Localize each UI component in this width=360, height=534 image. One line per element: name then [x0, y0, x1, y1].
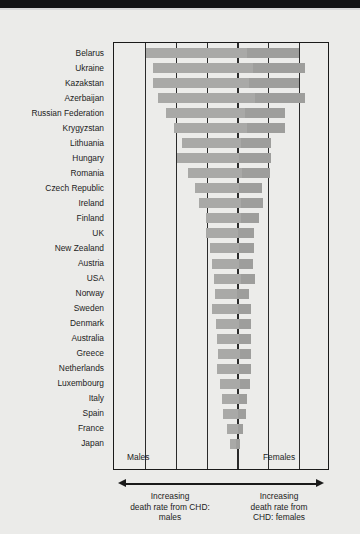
- category-label: Luxembourg: [0, 379, 108, 388]
- bar: [217, 364, 251, 374]
- bar: [166, 108, 285, 118]
- category-label: Japan: [0, 439, 108, 448]
- bar: [222, 394, 247, 404]
- category-label: Hungary: [0, 154, 108, 163]
- bar-inner-segment: [249, 78, 299, 88]
- bar-inner-segment: [239, 334, 251, 344]
- bar-inner-segment: [236, 439, 239, 449]
- bar-inner-segment: [239, 153, 271, 163]
- bar: [212, 304, 251, 314]
- bar: [212, 259, 253, 269]
- category-label: Ukraine: [0, 64, 108, 73]
- category-label: Krygyzstan: [0, 124, 108, 133]
- category-label: Romania: [0, 169, 108, 178]
- category-label: Russian Federation: [0, 109, 108, 118]
- males-legend-label: Males: [127, 452, 149, 462]
- bar: [220, 379, 250, 389]
- bar: [177, 153, 271, 163]
- bar-inner-segment: [255, 93, 305, 103]
- bar: [230, 439, 239, 449]
- category-label: Lithuania: [0, 139, 108, 148]
- bar-inner-segment: [242, 168, 270, 178]
- bar: [195, 183, 262, 193]
- bar-inner-segment: [237, 289, 249, 299]
- bar: [215, 289, 249, 299]
- bar: [188, 168, 271, 178]
- category-label: Spain: [0, 409, 108, 418]
- bar: [153, 78, 299, 88]
- bar: [206, 213, 260, 223]
- arrow-shaft: [125, 483, 317, 485]
- bar-inner-segment: [239, 364, 251, 374]
- bar: [199, 198, 263, 208]
- bar-inner-segment: [241, 138, 271, 148]
- left-axis-caption: Increasingdeath rate from CHD:males: [118, 491, 222, 523]
- bar-inner-segment: [239, 259, 253, 269]
- category-label: France: [0, 424, 108, 433]
- females-legend-label: Females: [263, 452, 295, 462]
- bar-inner-segment: [247, 123, 285, 133]
- bar-inner-segment: [247, 48, 299, 58]
- caption-line: Increasing: [231, 491, 327, 502]
- category-label: Czech Republic: [0, 184, 108, 193]
- category-label: Austria: [0, 259, 108, 268]
- bar-inner-segment: [239, 319, 251, 329]
- figure-page: BelarusUkraineKazakstanAzerbaijanRussian…: [0, 0, 360, 534]
- bar-inner-segment: [239, 243, 254, 253]
- bar: [153, 63, 305, 73]
- bar: [216, 319, 251, 329]
- bar-inner-segment: [240, 379, 250, 389]
- category-label: Azerbaijan: [0, 94, 108, 103]
- bar-inner-segment: [240, 349, 251, 359]
- caption-line: death rate from: [231, 502, 327, 513]
- bar: [223, 409, 246, 419]
- bar-inner-segment: [238, 409, 246, 419]
- bar: [206, 228, 254, 238]
- category-label: Finland: [0, 214, 108, 223]
- bar-inner-segment: [239, 394, 247, 404]
- category-label: USA: [0, 274, 108, 283]
- bar-inner-segment: [241, 274, 255, 284]
- caption-line: Increasing: [118, 491, 222, 502]
- bar: [227, 424, 244, 434]
- bar-inner-segment: [238, 228, 254, 238]
- figure-paper: BelarusUkraineKazakstanAzerbaijanRussian…: [0, 10, 360, 534]
- bar: [182, 138, 271, 148]
- category-label: Kazakstan: [0, 79, 108, 88]
- category-label: UK: [0, 229, 108, 238]
- bar: [158, 93, 305, 103]
- bar-inner-segment: [238, 304, 251, 314]
- bar-inner-segment: [245, 108, 285, 118]
- category-label: Denmark: [0, 319, 108, 328]
- arrow-right-head: [316, 479, 324, 487]
- bar: [218, 349, 251, 359]
- bar: [217, 334, 251, 344]
- direction-arrow: [118, 479, 324, 488]
- category-label: Italy: [0, 394, 108, 403]
- category-label: Greece: [0, 349, 108, 358]
- category-label: Belarus: [0, 49, 108, 58]
- category-label: Sweden: [0, 304, 108, 313]
- bar: [210, 243, 254, 253]
- bar: [174, 123, 285, 133]
- caption-line: males: [118, 512, 222, 523]
- bar-inner-segment: [253, 63, 305, 73]
- bar-inner-segment: [238, 424, 244, 434]
- bar: [146, 48, 298, 58]
- bar-inner-segment: [241, 213, 259, 223]
- bar-inner-segment: [241, 198, 263, 208]
- category-label: New Zealand: [0, 244, 108, 253]
- caption-line: death rate from CHD:: [118, 502, 222, 513]
- right-axis-caption: Increasingdeath rate fromCHD: females: [231, 491, 327, 523]
- category-label: Australia: [0, 334, 108, 343]
- page-top-band: [0, 0, 360, 8]
- bar: [214, 274, 255, 284]
- category-label: Norway: [0, 289, 108, 298]
- bars-layer: [113, 42, 329, 470]
- caption-line: CHD: females: [231, 512, 327, 523]
- bar-inner-segment: [239, 183, 262, 193]
- category-label: Netherlands: [0, 364, 108, 373]
- category-label: Ireland: [0, 199, 108, 208]
